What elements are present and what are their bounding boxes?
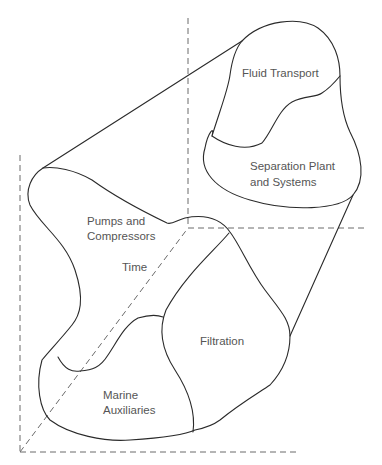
funnel-line-right xyxy=(290,195,353,336)
label-separation-line2: and Systems xyxy=(250,176,317,188)
label-time-axis: Time xyxy=(122,261,147,273)
label-fluid-transport: Fluid Transport xyxy=(242,67,320,79)
diagram-canvas: Fluid Transport Separation Plant and Sys… xyxy=(0,0,382,465)
funnel-line-top xyxy=(43,41,242,168)
label-marine-line2: Auxiliaries xyxy=(103,404,156,416)
label-separation-line1: Separation Plant xyxy=(250,160,336,172)
lower-blob-outline xyxy=(28,168,290,441)
label-pumps-line1: Pumps and xyxy=(87,215,145,227)
label-pumps-line2: Compressors xyxy=(87,230,156,242)
pumps-marine-divider xyxy=(58,316,163,372)
label-marine-line1: Marine xyxy=(103,389,138,401)
label-filtration: Filtration xyxy=(200,335,244,347)
funnel-lines xyxy=(43,41,353,336)
axes xyxy=(20,18,366,452)
lower-blob xyxy=(28,168,290,441)
fluid-separation-divider xyxy=(212,76,340,147)
labels: Fluid Transport Separation Plant and Sys… xyxy=(87,67,336,416)
filtration-left-divider xyxy=(162,233,229,432)
